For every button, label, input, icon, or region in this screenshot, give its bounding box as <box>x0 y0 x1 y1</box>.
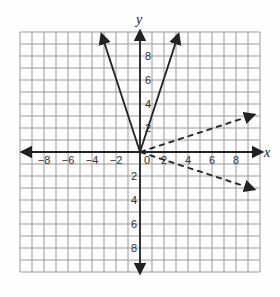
y-tick-label: 4 <box>145 98 151 110</box>
y-axis-label: y <box>134 12 143 27</box>
plotted-line <box>140 115 254 152</box>
y-tick-label: 8 <box>131 242 137 254</box>
y-tick-label: 4 <box>131 194 137 206</box>
x-tick-label: −6 <box>62 154 75 166</box>
y-tick-label: 6 <box>131 218 137 230</box>
x-tick-label: 4 <box>185 154 191 166</box>
x-tick-label: 8 <box>233 154 239 166</box>
x-tick-label: 6 <box>209 154 215 166</box>
plotted-line <box>102 34 140 152</box>
y-tick-label: 8 <box>145 50 151 62</box>
x-tick-label: −4 <box>86 154 99 166</box>
plotted-lines <box>102 34 254 189</box>
graph-svg: −8−6−4−22468024682468 x y <box>0 0 280 297</box>
x-tick-label: −2 <box>110 154 123 166</box>
y-tick-label: 6 <box>145 74 151 86</box>
x-tick-label: −8 <box>38 154 51 166</box>
origin-label: 0 <box>144 154 150 166</box>
y-tick-label: 2 <box>131 170 137 182</box>
coordinate-plane-figure: −8−6−4−22468024682468 x y <box>0 0 280 297</box>
x-axis-label: x <box>263 145 271 160</box>
